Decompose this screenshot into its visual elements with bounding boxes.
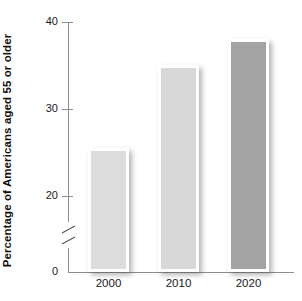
y-tick-label-40: 40: [34, 16, 58, 27]
y-tick-label-0-wrap: 0: [32, 266, 58, 278]
bar-2000[interactable]: [88, 148, 129, 272]
x-tick-label-2000: 2000: [88, 278, 129, 290]
bar-2020[interactable]: [228, 39, 269, 272]
y-tick-label-0: 0: [34, 266, 58, 277]
y-tick-mark-20: [62, 196, 73, 197]
bar-2010[interactable]: [158, 65, 199, 272]
y-tick-mark-30: [62, 109, 73, 110]
y-tick-label-40-wrap: 40: [32, 16, 58, 28]
plot-area: 40 30 20 0 2000 2010 2020: [0, 0, 302, 301]
y-tick-label-30: 30: [34, 103, 58, 114]
x-tick-label-2010: 2010: [158, 278, 199, 290]
x-axis-line: [68, 272, 294, 273]
bar-chart-figure: Percentage of Americans aged 55 or older…: [0, 0, 302, 301]
y-tick-label-20-wrap: 20: [32, 190, 58, 202]
x-tick-label-2020: 2020: [228, 278, 269, 290]
y-tick-mark-40: [62, 22, 73, 23]
y-tick-label-20: 20: [34, 190, 58, 201]
y-tick-label-30-wrap: 30: [32, 103, 58, 115]
axis-break-icon: [60, 222, 78, 248]
